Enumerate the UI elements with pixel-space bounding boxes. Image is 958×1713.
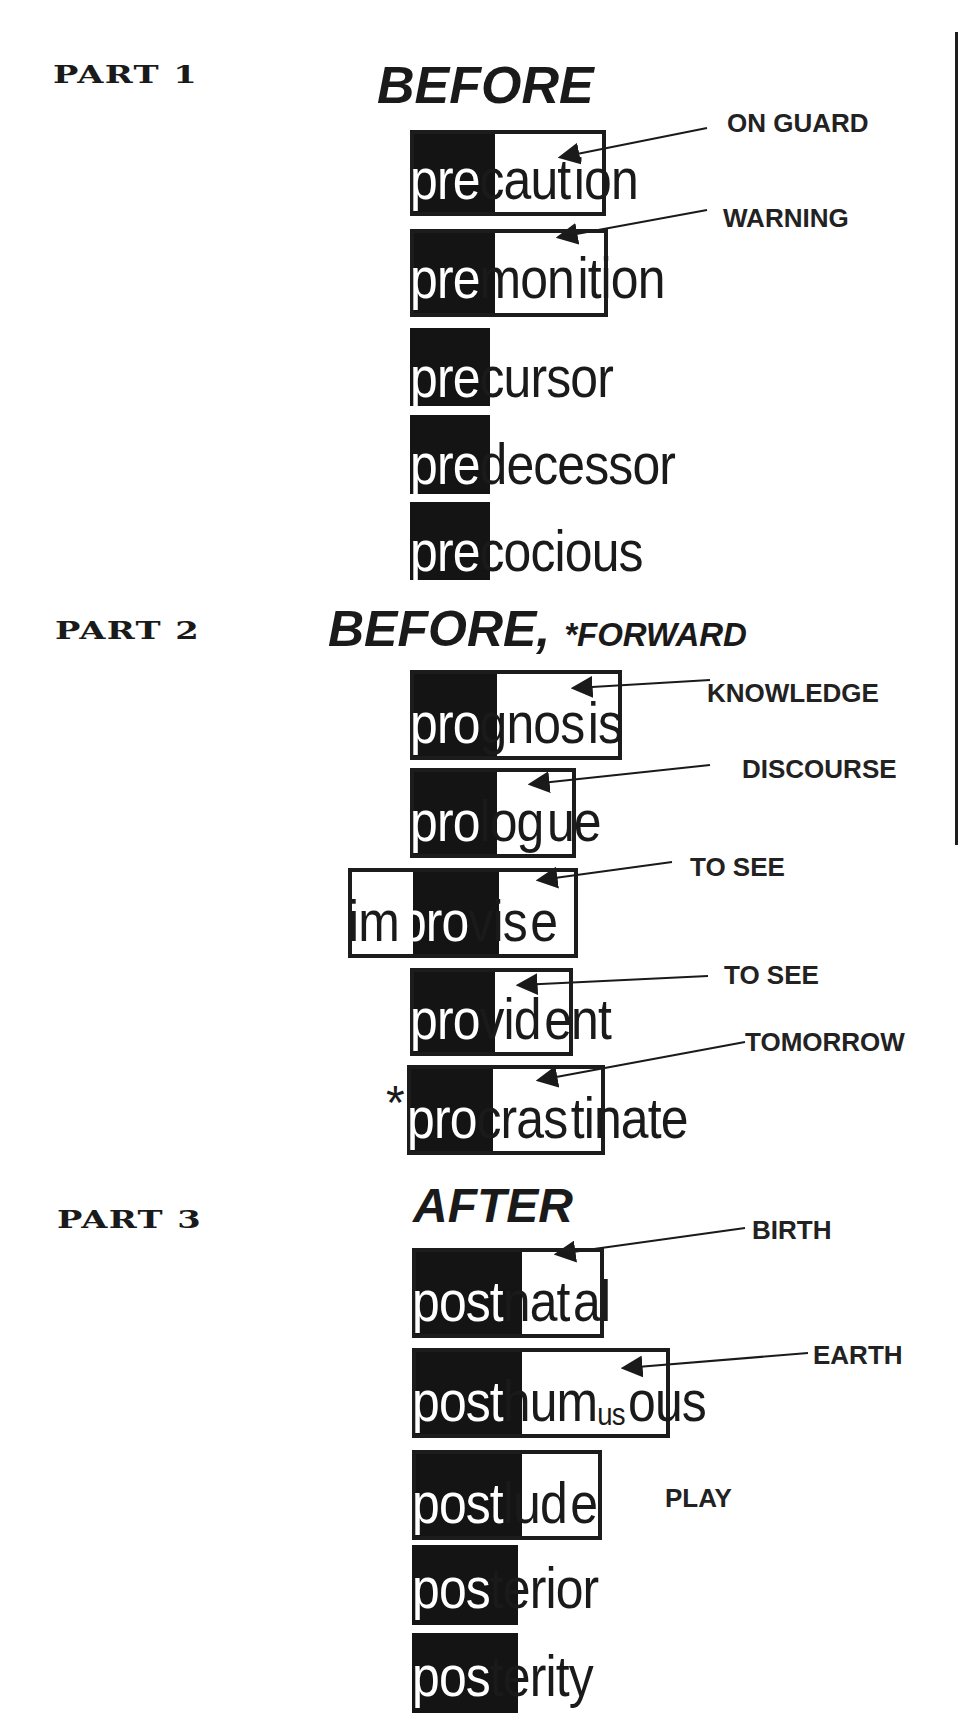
suffix: e [530,892,557,950]
word-precaution: precaution [410,130,710,216]
suffix: cursor [480,348,613,406]
gloss-on-guard: ON GUARD [727,108,869,139]
word-postlude: postlude [412,1450,672,1540]
prefix: pro [410,792,480,850]
root: caut [480,150,571,208]
prefix: post [412,1372,503,1430]
gloss-knowledge: KNOWLEDGE [707,678,879,709]
word-prologue: prologue [410,768,670,858]
word-improvise: improvise [348,868,648,958]
prefix: pre [410,249,480,307]
prefix: pro [399,892,469,950]
gloss-to-see-2: TO SEE [724,960,819,991]
prefix: pro [410,694,480,752]
suffix: terity [490,1647,593,1705]
part-2-label: PART 2 [55,616,200,645]
root: mon [480,249,574,307]
root: log [480,792,544,850]
word-provident: provident [410,968,670,1056]
part-3-heading: AFTER [413,1178,573,1233]
heading-before: BEFORE, [328,601,550,657]
root: lud [503,1474,567,1532]
word-precocious: precocious [410,502,710,588]
heading-forward-note: *FORWARD [564,616,747,653]
suffix: ion [574,150,638,208]
suffix: is [588,694,622,752]
word-posterior: posterior [412,1545,672,1625]
root: vis [468,892,526,950]
word-precursor: precursor [410,328,710,414]
root: gnos [480,694,585,752]
root: nat [503,1272,570,1330]
word-postnatal: postnatal [412,1248,672,1338]
gloss-tomorrow: TOMORROW [745,1027,905,1058]
root: hum [503,1372,597,1430]
word-procrastinate: procrastinate [407,1065,747,1155]
suffix: decessor [480,435,676,493]
part-1-label: PART 1 [53,60,198,89]
prefix: pre [410,348,480,406]
part-1-heading: BEFORE [377,55,594,115]
gloss-discourse: DISCOURSE [742,754,897,785]
gloss-play: PLAY [665,1483,732,1514]
suffix: al [573,1272,610,1330]
asterisk-marker: * [386,1075,405,1130]
suffix: e [570,1474,597,1532]
suffix: ue [547,792,601,850]
gloss-earth: EARTH [813,1340,903,1371]
prefix: pos [412,1647,490,1705]
root: vid [480,990,541,1048]
part-2-heading: BEFORE, *FORWARD [328,600,747,658]
prefix: pos [412,1559,490,1617]
prefix: pre [410,522,480,580]
suffix: ent [544,990,611,1048]
word-predecessor: predecessor [410,415,730,501]
root-small: us [597,1398,624,1430]
word-premonition: premonition [410,229,730,315]
word-prognosis: prognosis [410,670,710,760]
suffix: cocious [480,522,643,580]
root: cras [477,1089,568,1147]
suffix: terior [490,1559,598,1617]
gloss-warning: WARNING [723,203,849,234]
part-3-label: PART 3 [57,1205,202,1234]
pre-prefix: im [348,892,399,950]
prefix: pre [410,150,480,208]
prefix: pro [407,1089,477,1147]
prefix: post [412,1272,503,1330]
word-posthumous: posthumusous [412,1348,772,1438]
prefix: pre [410,435,480,493]
gloss-to-see-1: TO SEE [690,852,785,883]
gloss-birth: BIRTH [752,1215,831,1246]
word-posterity: posterity [412,1633,672,1713]
prefix: post [412,1474,503,1532]
prefix: pro [410,990,480,1048]
suffix: tinate [571,1089,688,1147]
suffix: ition [577,249,664,307]
suffix: ous [628,1372,706,1430]
